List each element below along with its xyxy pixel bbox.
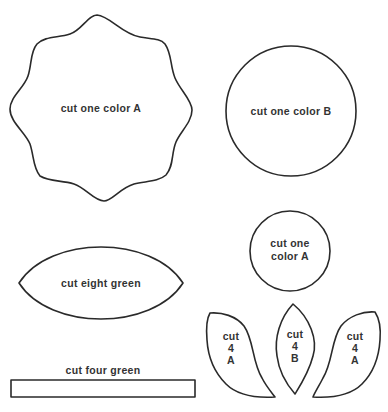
petal-right-label-line-1: cut (347, 330, 364, 342)
stem-piece: cut four green (11, 364, 195, 397)
small-circle-label-line-2: color A (271, 250, 309, 262)
petal-middle-label-line-2: 4 (292, 340, 298, 352)
petal-right-outline (313, 312, 380, 397)
petal-right-label-line-2: 4 (352, 342, 358, 354)
scalloped-flower-label: cut one color A (61, 102, 142, 114)
petal-middle-label-line-1: cut (287, 328, 304, 340)
petal-middle-label-line-3: B (291, 352, 299, 364)
stem-label: cut four green (66, 364, 141, 376)
petal-left-label-line-2: 4 (228, 342, 234, 354)
petal-right-piece: cut 4 A (313, 312, 380, 397)
leaf-label: cut eight green (61, 277, 141, 289)
scalloped-flower-piece: cut one color A (10, 15, 192, 201)
petal-left-piece: cut 4 A (207, 313, 275, 397)
petal-left-label-line-1: cut (223, 330, 240, 342)
petal-middle-piece: cut 4 B (276, 304, 314, 394)
small-circle-piece: cut one color A (250, 211, 330, 291)
small-circle-label-line-1: cut one (270, 237, 309, 249)
large-circle-piece: cut one color B (226, 46, 356, 176)
petal-left-outline (207, 313, 275, 397)
petal-left-label-line-3: A (227, 354, 235, 366)
petal-right-label-line-3: A (351, 354, 359, 366)
stem-outline (11, 380, 195, 397)
large-circle-label: cut one color B (251, 105, 332, 117)
leaf-piece: cut eight green (19, 247, 183, 319)
